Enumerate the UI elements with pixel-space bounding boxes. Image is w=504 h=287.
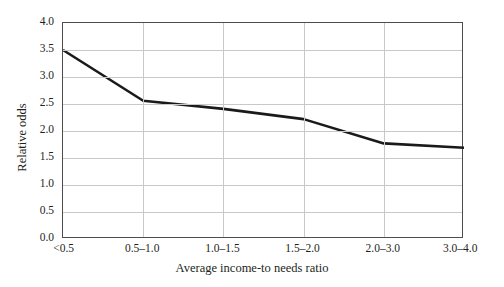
x-axis-tick-labels: <0.50.5–1.01.0–1.51.5–2.02.0–3.03.0–4.0 [0,0,504,287]
x-tick-label: 0.5–1.0 [125,243,160,255]
x-axis-title: Average income-to needs ratio [0,261,504,276]
chart-figure: 0.00.51.01.52.02.53.03.54.0 <0.50.5–1.01… [0,0,504,287]
x-tick-label: 1.5–2.0 [285,243,320,255]
y-axis-title: Relative odds [15,68,30,208]
x-tick-label: 2.0–3.0 [366,243,401,255]
x-tick-label: <0.5 [53,243,74,255]
x-tick-label: 1.0–1.5 [205,243,240,255]
x-tick-label: 3.0–4.0 [443,243,478,255]
